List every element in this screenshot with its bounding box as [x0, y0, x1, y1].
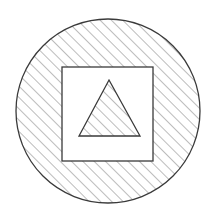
geometry-diagram: Hatched circle containing plain square w… [0, 0, 217, 218]
figure-container: Hatched circle containing plain square w… [0, 0, 217, 218]
